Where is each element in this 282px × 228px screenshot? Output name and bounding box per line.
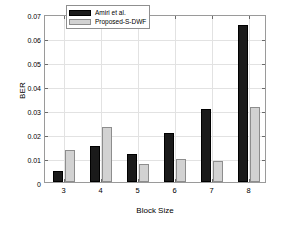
x-tick-label: 3: [61, 186, 65, 195]
y-tick-label: 0.04: [27, 85, 41, 92]
bar-7-series-0: [201, 109, 211, 182]
legend-item-0: Amiri et al.: [69, 8, 146, 17]
legend-item-1: Proposed-S-DWF: [69, 17, 146, 26]
legend-label: Amiri et al.: [95, 9, 126, 16]
y-tick-label: 0.03: [27, 109, 41, 116]
x-tick-label: 7: [209, 186, 213, 195]
bar-8-series-1: [250, 107, 260, 182]
x-tick-label: 8: [246, 186, 250, 195]
bar-3-series-0: [53, 171, 63, 182]
x-tick-label: 4: [98, 186, 102, 195]
legend-swatch-icon: [69, 19, 91, 25]
y-tick-label: 0.07: [27, 13, 41, 20]
bar-7-series-1: [213, 161, 223, 182]
bar-4-series-1: [102, 127, 112, 182]
plot-area: 00.010.020.030.040.050.060.07 345678: [44, 15, 266, 183]
bar-5-series-0: [127, 154, 137, 182]
y-tick-label: 0.05: [27, 61, 41, 68]
bar-3-series-1: [65, 150, 75, 182]
bar-5-series-1: [139, 164, 149, 182]
y-axis-title: BER: [18, 61, 27, 121]
bar-6-series-1: [176, 159, 186, 182]
legend-swatch-icon: [69, 10, 91, 16]
x-tick-label: 5: [135, 186, 139, 195]
bar-8-series-0: [238, 25, 248, 182]
bar-6-series-0: [164, 133, 174, 182]
y-tick-label: 0: [37, 181, 41, 188]
y-tick-label: 0.02: [27, 133, 41, 140]
bars-layer: [45, 16, 265, 182]
x-axis-title: Block Size: [44, 206, 266, 215]
y-tick-label: 0.06: [27, 37, 41, 44]
bar-4-series-0: [90, 146, 100, 182]
y-tick-label: 0.01: [27, 157, 41, 164]
x-tick-label: 6: [172, 186, 176, 195]
bar-chart-figure: BER 00.010.020.030.040.050.060.07 345678…: [0, 0, 282, 228]
chart-legend: Amiri et al. Proposed-S-DWF: [66, 5, 150, 29]
legend-label: Proposed-S-DWF: [95, 18, 146, 25]
